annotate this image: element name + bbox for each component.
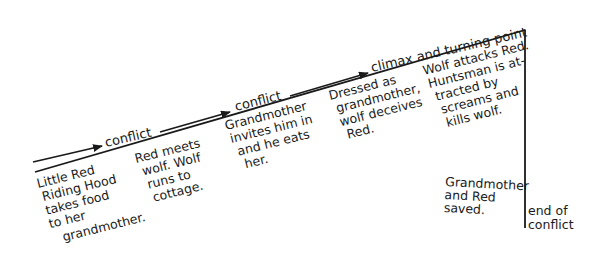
stage-label-conflict-1: conflict xyxy=(103,125,153,150)
end-of-conflict-label: end of conflict xyxy=(528,203,574,232)
svg-text:conflict: conflict xyxy=(528,217,574,232)
svg-text:end of: end of xyxy=(528,203,568,218)
svg-text:saved.: saved. xyxy=(443,200,485,217)
plot-diagram: conflict conflict climax and turning poi… xyxy=(0,0,604,261)
arrow-line-1 xyxy=(33,146,102,162)
arrow-line-2 xyxy=(160,112,230,132)
event-2-text: Red meets wolf. Wolf runs to cottage. xyxy=(133,135,212,206)
event-6-text: Grandmother and Red saved. xyxy=(443,174,530,219)
svg-text:conflict: conflict xyxy=(103,125,153,150)
event-4-text: Dressed as grandmother, wolf deceives Re… xyxy=(327,67,428,144)
